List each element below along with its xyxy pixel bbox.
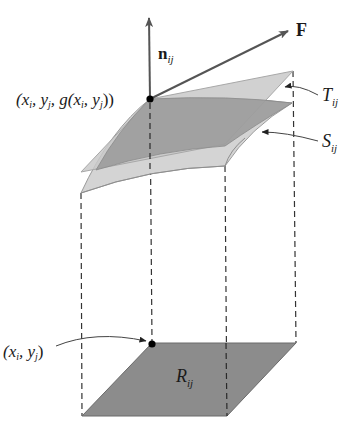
surface-patch-label: Sij [322,131,337,154]
normal-vector-label: nij [158,44,174,65]
sij-leader [262,132,318,141]
surface-point-label: (xi, yj, g(xi, yj)) [16,90,114,110]
projection-line-right [293,71,296,343]
surface-point-dot [146,95,153,102]
field-vector-label: F [296,20,307,40]
tangent-plane-label: Tij [322,85,338,108]
domain-point-dot [148,340,155,347]
domain-point-label: (xi, yj) [3,342,44,362]
normal-vector-arrow [149,18,150,99]
flux-diagram: nij F (xi, yj, g(xi, yj)) Tij Sij (xi, y… [0,0,345,427]
domain-point-leader [56,337,146,346]
tij-leader [285,86,318,95]
projection-line-left [81,193,82,416]
